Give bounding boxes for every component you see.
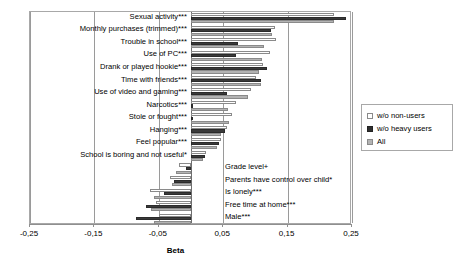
bar-0 [191, 113, 232, 116]
bar-row [30, 150, 350, 163]
bar-row [30, 62, 350, 75]
bar-row [30, 137, 350, 150]
bar-2 [191, 20, 334, 23]
bar-2 [191, 83, 261, 86]
legend-item-0[interactable]: w/o non-users [367, 109, 448, 122]
x-tick-label-4: 0,15 [279, 229, 295, 238]
bar-row [30, 187, 350, 200]
bar-2 [191, 95, 248, 98]
category-label: Monthly purchases (trimmed)*** [80, 25, 187, 33]
bar-row [30, 125, 350, 138]
legend-swatch-all [367, 139, 373, 145]
bar-2 [151, 208, 191, 211]
bar-2 [191, 133, 221, 136]
bar-row [30, 100, 350, 113]
bar-2 [191, 33, 272, 36]
x-tick-5 [351, 224, 352, 227]
category-label: Hanging*** [150, 126, 187, 134]
bar-2 [191, 158, 203, 161]
x-tick-label-1: -0,15 [84, 229, 102, 238]
bar-row [30, 50, 350, 63]
bar-row [30, 87, 350, 100]
bar-row [30, 200, 350, 213]
x-axis-title: Beta [0, 246, 351, 255]
category-label: Drank or played hookie*** [100, 63, 187, 71]
category-label: Sexual activity*** [130, 13, 187, 21]
beta-coefficient-bar-chart: Sexual activity***Monthly purchases (tri… [0, 0, 461, 270]
legend-item-2[interactable]: All [367, 135, 448, 148]
legend-label-1: w/o heavy users [377, 124, 432, 133]
x-tick-label-3: 0,05 [214, 229, 230, 238]
bar-2 [172, 183, 191, 186]
legend-label-2: All [377, 137, 385, 146]
bar-2 [191, 146, 217, 149]
bar-2 [191, 45, 264, 48]
bar-row [30, 25, 350, 38]
category-label: School is boring and not useful* [80, 151, 187, 159]
bar-2 [191, 121, 229, 124]
legend-swatch-wo-non-users [367, 113, 373, 119]
bar-row [30, 12, 350, 25]
category-label: Use of PC*** [144, 50, 187, 58]
category-label: Feel popular*** [136, 138, 187, 146]
x-tick-1 [93, 224, 94, 227]
x-axis-line [29, 224, 351, 225]
bar-rows [30, 12, 350, 223]
x-tick-label-2: -0,05 [149, 229, 167, 238]
x-tick-0 [29, 224, 30, 227]
legend-item-1[interactable]: w/o heavy users [367, 122, 448, 135]
bar-row [30, 112, 350, 125]
bar-row [30, 37, 350, 50]
legend: w/o non-users w/o heavy users All [361, 104, 453, 151]
gridline-5 [352, 12, 353, 223]
x-tick-4 [287, 224, 288, 227]
x-tick-3 [222, 224, 223, 227]
bar-2 [176, 171, 191, 174]
bar-2 [191, 108, 228, 111]
category-label: Use of video and gaming*** [94, 88, 187, 96]
category-label: Grade level+ [225, 163, 268, 171]
bar-2 [191, 70, 259, 73]
x-tick-label-0: -0,25 [20, 229, 38, 238]
plot-area [29, 11, 351, 224]
category-label: Time with friends*** [121, 76, 187, 84]
category-label: Is lonely*** [225, 188, 262, 196]
category-label: Narcotics*** [146, 101, 187, 109]
bar-row [30, 162, 350, 175]
bar-row [30, 75, 350, 88]
legend-swatch-wo-heavy-users [367, 126, 373, 132]
x-tick-label-5: 0,25 [343, 229, 359, 238]
category-label: Stole or fought*** [129, 113, 187, 121]
category-label: Parents have control over child* [225, 176, 332, 184]
legend-label-0: w/o non-users [377, 111, 425, 120]
category-label: Male*** [225, 213, 250, 221]
x-tick-2 [158, 224, 159, 227]
bar-2 [191, 58, 262, 61]
category-label: Trouble in school*** [121, 38, 187, 46]
bar-0 [191, 101, 236, 104]
category-label: Free time at home*** [225, 201, 295, 209]
bar-2 [154, 196, 191, 199]
